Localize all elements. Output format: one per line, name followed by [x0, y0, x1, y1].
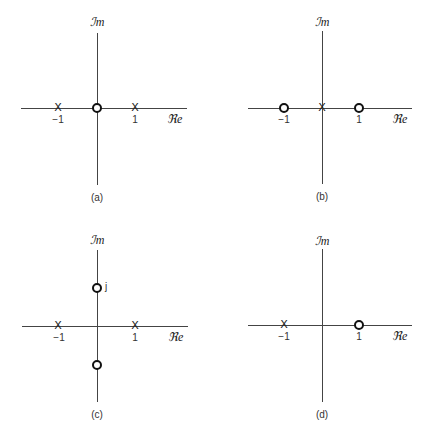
tick-label-pos1: 1	[356, 114, 362, 125]
real-axis	[248, 108, 412, 109]
zero-marker-pos-j	[92, 283, 102, 293]
tick-label-neg1: −1	[53, 332, 64, 343]
zero-marker-neg1	[279, 103, 289, 113]
real-axis-label: ℜe	[168, 330, 183, 345]
tick-label-neg1: −1	[278, 331, 289, 342]
real-axis-label: ℜe	[392, 329, 407, 344]
pole-marker-origin: X	[318, 102, 326, 113]
zero-label-j: j	[105, 281, 107, 292]
tick-label-pos1: 1	[356, 331, 362, 342]
panel-d: ℐm X −1 1 ℜe (d)	[216, 218, 432, 436]
panel-caption: (d)	[316, 409, 328, 420]
panel-caption: (b)	[316, 191, 328, 202]
imag-axis-label: ℐm	[90, 233, 105, 248]
tick-label-neg1: −1	[52, 114, 63, 125]
pole-marker-neg1: X	[54, 320, 62, 331]
pole-marker-neg1: X	[280, 319, 288, 330]
zero-marker-pos1	[354, 103, 364, 113]
imag-axis-label: ℐm	[90, 15, 105, 30]
panel-c: ℐm X X j −1 1 ℜe (c)	[0, 218, 216, 436]
tick-label-neg1: −1	[278, 114, 289, 125]
real-axis	[21, 108, 187, 109]
real-axis	[22, 326, 188, 327]
panel-b: ℐm X −1 1 ℜe (b)	[216, 0, 432, 218]
pole-marker-neg1: X	[54, 102, 62, 113]
pole-marker-pos1: X	[131, 320, 139, 331]
real-axis-label: ℜe	[392, 112, 407, 127]
real-axis-label: ℜe	[167, 112, 182, 127]
imag-axis-label: ℐm	[315, 234, 330, 249]
tick-label-pos1: 1	[132, 332, 138, 343]
zero-marker-pos1	[354, 320, 364, 330]
zero-marker-origin	[92, 103, 102, 113]
tick-label-pos1: 1	[132, 114, 138, 125]
panel-caption: (a)	[91, 192, 103, 203]
panel-a: ℐm X X −1 1 ℜe (a)	[0, 0, 216, 218]
pole-marker-pos1: X	[131, 102, 139, 113]
real-axis	[248, 325, 412, 326]
imag-axis-label: ℐm	[315, 15, 330, 30]
panel-caption: (c)	[91, 409, 103, 420]
zero-marker-neg-j	[92, 360, 102, 370]
